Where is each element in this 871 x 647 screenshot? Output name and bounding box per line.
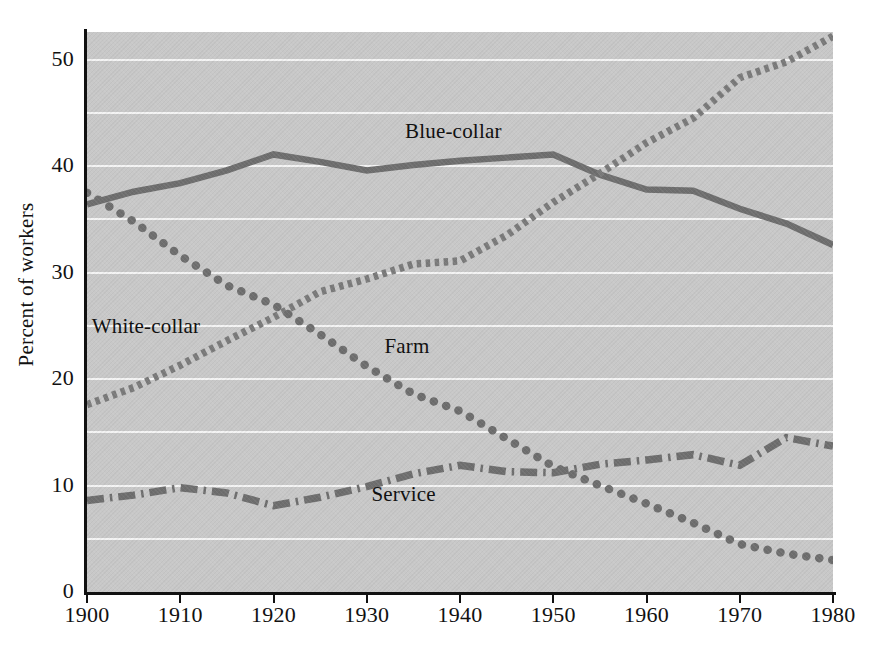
x-tick-mark [739, 595, 741, 603]
x-tick-mark [459, 595, 461, 603]
x-tick-label: 1930 [322, 602, 412, 628]
x-tick-mark [273, 595, 275, 603]
series-line-service [87, 438, 833, 506]
x-tick-label: 1940 [415, 602, 505, 628]
series-label-service: Service [371, 484, 435, 505]
x-tick-mark [832, 595, 834, 603]
figure-line-chart-occupations: Percent of workers 50403020100 190019101… [0, 0, 871, 647]
x-tick-mark [366, 595, 368, 603]
x-tick-label: 1960 [602, 602, 692, 628]
series-label-farm: Farm [384, 336, 429, 357]
series-label-white-collar: White-collar [92, 316, 201, 337]
y-tick-label: 30 [12, 261, 74, 283]
x-tick-mark [646, 595, 648, 603]
y-tick-label: 0 [12, 580, 74, 602]
x-tick-mark [552, 595, 554, 603]
series-line-white-collar [87, 36, 833, 404]
y-tick-label: 10 [12, 474, 74, 496]
x-tick-mark [179, 595, 181, 603]
x-tick-label: 1910 [135, 602, 225, 628]
y-tick-label: 20 [12, 367, 74, 389]
series-line-farm [87, 193, 833, 560]
x-tick-label: 1980 [788, 602, 871, 628]
series-label-blue-collar: Blue-collar [405, 121, 502, 142]
y-tick-label: 40 [12, 154, 74, 176]
y-tick-label: 50 [12, 48, 74, 70]
x-tick-label: 1900 [42, 602, 132, 628]
series-line-blue-collar [87, 154, 833, 245]
series-lines [87, 32, 833, 592]
x-tick-label: 1970 [695, 602, 785, 628]
x-tick-label: 1920 [229, 602, 319, 628]
plot-area: Blue-collarWhite-collarFarmService [87, 32, 833, 592]
x-tick-mark [86, 595, 88, 603]
x-tick-label: 1950 [508, 602, 598, 628]
